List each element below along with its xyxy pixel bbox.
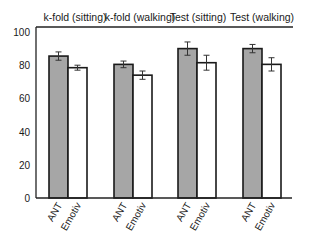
y-tick-label: 20 bbox=[19, 160, 31, 171]
group-title: k-fold (walking) bbox=[105, 11, 176, 23]
bar-emotiv bbox=[197, 63, 216, 198]
group-title: k-fold (sitting) bbox=[43, 11, 106, 23]
bar-ant bbox=[49, 56, 68, 198]
y-axis-ticks: 020406080100 bbox=[13, 27, 30, 204]
bar-emotiv bbox=[133, 75, 152, 198]
x-category-label: ANT bbox=[239, 201, 259, 224]
group-title: Test (sitting) bbox=[170, 11, 227, 23]
x-category-label: ANT bbox=[174, 201, 194, 224]
x-category-label: ANT bbox=[45, 201, 65, 224]
bar-ant bbox=[114, 64, 133, 198]
bar-emotiv bbox=[262, 64, 281, 198]
y-tick-label: 80 bbox=[19, 60, 31, 71]
bar-ant bbox=[178, 49, 197, 198]
x-axis-labels: ANTEmotivANTEmotivANTEmotivANTEmotiv bbox=[45, 201, 278, 233]
bar-emotiv bbox=[68, 68, 87, 198]
y-tick-label: 0 bbox=[24, 193, 30, 204]
group-title: Test (walking) bbox=[230, 11, 294, 23]
group-titles: k-fold (sitting)k-fold (walking)Test (si… bbox=[43, 11, 294, 23]
x-category-label: ANT bbox=[110, 201, 130, 224]
bar-ant bbox=[243, 49, 262, 198]
bar-chart: 020406080100 k-fold (sitting)k-fold (wal… bbox=[0, 0, 309, 244]
bars bbox=[49, 42, 281, 198]
y-tick-label: 40 bbox=[19, 127, 31, 138]
y-tick-label: 60 bbox=[19, 93, 31, 104]
y-tick-label: 100 bbox=[13, 27, 30, 38]
